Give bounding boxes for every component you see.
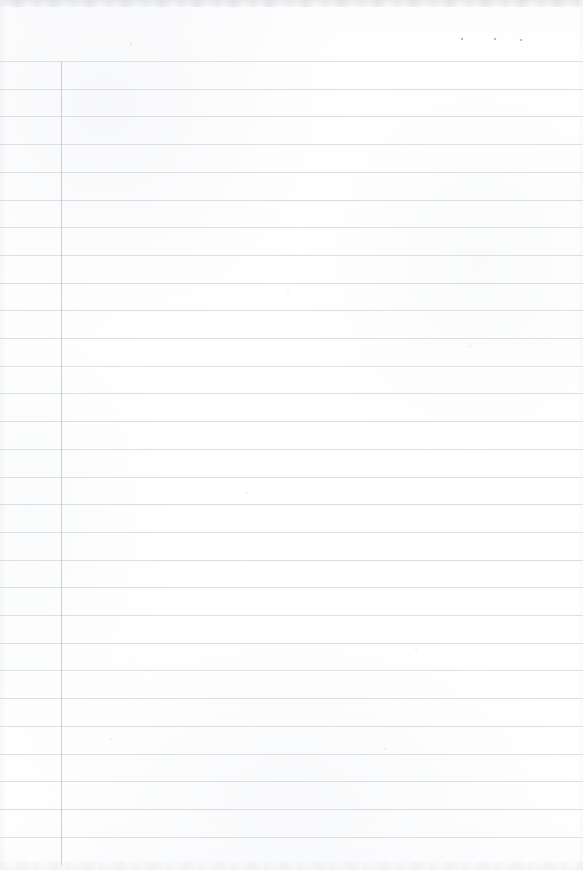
paper-speck xyxy=(540,760,541,761)
paper-speck xyxy=(135,659,136,660)
paper-speck xyxy=(415,648,417,650)
paper-speck xyxy=(384,748,386,750)
paper-speck xyxy=(355,680,356,681)
paper-speck xyxy=(110,738,112,740)
paper-speck xyxy=(130,43,132,45)
paper-marks-layer xyxy=(0,0,583,870)
paper-speck xyxy=(196,812,197,813)
paper-speck xyxy=(246,566,247,567)
paper-speck xyxy=(520,256,521,257)
paper-speck xyxy=(287,290,289,292)
paper-speck xyxy=(469,345,471,347)
pencil-dot-mark xyxy=(494,38,496,40)
scanned-page xyxy=(0,0,583,870)
paper-speck xyxy=(72,516,73,517)
pencil-dot-mark xyxy=(461,38,463,40)
paper-speck xyxy=(246,492,248,494)
pencil-dot-mark xyxy=(520,39,522,41)
